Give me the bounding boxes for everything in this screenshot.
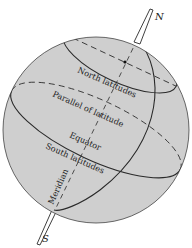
axis-point	[123, 60, 126, 63]
globe-diagram: N S North latitudes Parallel of latitude…	[0, 0, 192, 248]
north-pole-label: N	[154, 11, 165, 22]
globe	[3, 37, 189, 223]
north-axis	[134, 9, 153, 44]
south-pole-label: S	[42, 233, 49, 244]
